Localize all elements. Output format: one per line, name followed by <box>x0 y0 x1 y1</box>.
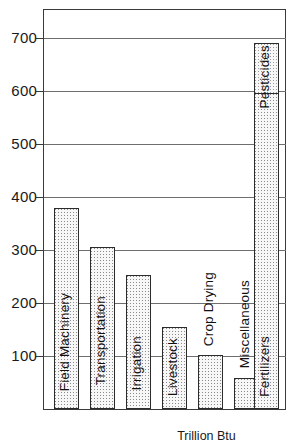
category-label-livestock: Livestock <box>166 338 180 396</box>
ytick-label-300: 300 <box>0 242 37 257</box>
ytick-label-400: 400 <box>0 189 37 204</box>
category-label-transportation: Transportation <box>94 296 108 385</box>
ytick-label-100: 100 <box>0 348 37 363</box>
category-label-fertilizers: Fertilizers <box>258 336 272 397</box>
category-label-crop-drying: Crop Drying <box>202 272 216 346</box>
ytick-label-700: 700 <box>0 30 37 45</box>
category-label-irrigation: Irrigation <box>130 336 144 391</box>
ytick-label-600: 600 <box>0 83 37 98</box>
gridline-400 <box>43 197 286 198</box>
category-label-field-machinery: Field Machinery <box>58 293 72 391</box>
ytick-label-200: 200 <box>0 295 37 310</box>
ytick-300 <box>36 250 44 251</box>
gridline-700 <box>43 38 286 39</box>
bar-chart: 700 600 500 400 300 200 100 Field Machin… <box>0 0 293 445</box>
ytick-500 <box>36 144 44 145</box>
bar-crop-drying[interactable] <box>198 355 223 409</box>
ytick-600 <box>36 91 44 92</box>
category-label-pesticides: Pesticides <box>258 45 272 109</box>
gridline-600 <box>43 91 286 92</box>
gridline-300 <box>43 250 286 251</box>
x-axis-title: Trillion Btu <box>0 429 293 443</box>
x-axis-title-text: Trillion Btu <box>57 429 236 443</box>
category-label-miscellaneous: Miscellaneous <box>238 280 252 368</box>
ytick-200 <box>36 303 44 304</box>
gridline-500 <box>43 144 286 145</box>
ytick-100 <box>36 356 44 357</box>
ytick-label-500: 500 <box>0 136 37 151</box>
ytick-400 <box>36 197 44 198</box>
ytick-700 <box>36 38 44 39</box>
